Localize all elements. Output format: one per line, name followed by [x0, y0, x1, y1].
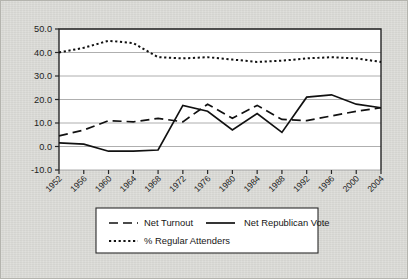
legend-label-net-turnout: Net Turnout [144, 217, 193, 228]
x-tick-label: 1956 [68, 173, 89, 194]
y-tick-label: 40.0 [34, 48, 52, 58]
x-tick-label: 1984 [241, 173, 262, 194]
legend-label-regular-attenders: % Regular Attenders [144, 235, 230, 246]
x-tick-label: 1980 [217, 173, 238, 194]
y-tick-label: 10.0 [34, 118, 52, 128]
x-tick-label: 1992 [291, 173, 312, 194]
chart-figure: 50.040.030.020.010.00.0-10.0 19521956196… [0, 0, 408, 279]
x-tick-label: 1968 [142, 173, 163, 194]
x-tick-label: 1996 [316, 173, 337, 194]
y-tick-label: 30.0 [34, 71, 52, 81]
y-tick-label: 20.0 [34, 95, 52, 105]
x-tick-label: 2000 [341, 173, 362, 194]
y-tick-label: 50.0 [34, 24, 52, 34]
chart-legend: Net TurnoutNet Republican Vote% Regular … [96, 208, 329, 253]
y-axis-ticks: 50.040.030.020.010.00.0-10.0 [31, 24, 59, 175]
legend-label-net-republican-vote: Net Republican Vote [244, 217, 329, 228]
x-axis-ticks: 1952195619601964196819721976198019841988… [43, 170, 386, 194]
x-tick-label: 1952 [43, 173, 64, 194]
x-tick-label: 1972 [167, 173, 188, 194]
x-tick-label: 1988 [266, 173, 287, 194]
line-chart: 50.040.030.020.010.00.0-10.0 19521956196… [1, 1, 408, 279]
x-tick-label: 2004 [365, 173, 386, 194]
y-tick-label: 0.0 [39, 142, 52, 152]
y-tick-label: -10.0 [31, 165, 52, 175]
x-tick-label: 1964 [118, 173, 139, 194]
x-tick-label: 1976 [192, 173, 213, 194]
x-tick-label: 1960 [93, 173, 114, 194]
